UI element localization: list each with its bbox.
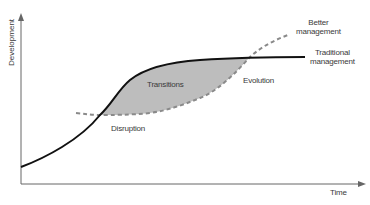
disruption-label: Disruption xyxy=(111,124,145,133)
x-axis-label: Time xyxy=(330,188,347,197)
y-axis-arrow-icon xyxy=(18,13,24,21)
traditional-label-line1: Traditional xyxy=(310,48,355,57)
better-management-label: Better management xyxy=(296,18,341,36)
traditional-management-label: Traditional management xyxy=(310,48,355,66)
y-axis-label: Development xyxy=(7,18,16,68)
traditional-label-line2: management xyxy=(310,57,355,66)
transitions-label: Transitions xyxy=(147,80,184,89)
x-axis-arrow-icon xyxy=(358,181,366,187)
evolution-label: Evolution xyxy=(243,76,274,85)
better-label-line1: Better xyxy=(296,18,341,27)
better-label-line2: management xyxy=(296,27,341,36)
